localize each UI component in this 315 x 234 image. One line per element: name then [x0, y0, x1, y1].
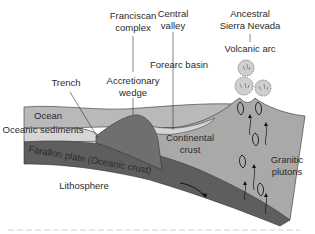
label-granitic-line2: plutons — [272, 166, 303, 177]
label-granitic-line1: Granitic — [271, 154, 304, 165]
label-continental-line2: crust — [180, 144, 201, 155]
label-ocean: Ocean — [34, 110, 62, 121]
label-lithosphere: Lithosphere — [59, 180, 109, 191]
label-ancestral-line1: Ancestral — [230, 8, 270, 19]
label-accretionary-line1: Accretionary — [107, 75, 160, 86]
label-trench: Trench — [51, 77, 80, 88]
label-oceanic-sediments: Oceanic sediments — [3, 124, 84, 135]
volcanic-ash-clouds — [235, 60, 271, 96]
label-continental-line1: Continental — [166, 132, 214, 143]
label-franciscan-line2: complex — [115, 22, 151, 33]
label-central-valley-line1: Central — [158, 8, 189, 19]
label-volcanic-arc: Volcanic arc — [224, 43, 275, 54]
label-ancestral-line2: Sierra Nevada — [220, 20, 281, 31]
label-accretionary-line2: wedge — [118, 87, 147, 98]
cross-section-diagram: Franciscan complex Central valley Ancest… — [0, 0, 315, 234]
label-central-valley-line2: valley — [161, 20, 186, 31]
label-forearc-basin: Forearc basin — [150, 59, 208, 70]
label-franciscan-line1: Franciscan — [110, 10, 156, 21]
